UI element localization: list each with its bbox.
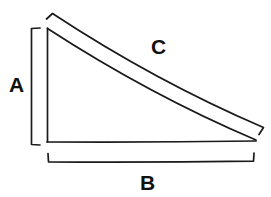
triangle-diagram-figure: A B C xyxy=(0,0,271,197)
side-label-a: A xyxy=(9,74,24,95)
side-label-c: C xyxy=(151,36,166,57)
measure-bracket-b xyxy=(48,153,254,162)
side-label-b: B xyxy=(140,172,155,193)
triangle-horizontal-leg xyxy=(47,141,256,142)
measure-bracket-a xyxy=(32,28,41,145)
triangle-diagram-svg xyxy=(0,0,271,197)
measure-bracket-c xyxy=(47,14,264,135)
